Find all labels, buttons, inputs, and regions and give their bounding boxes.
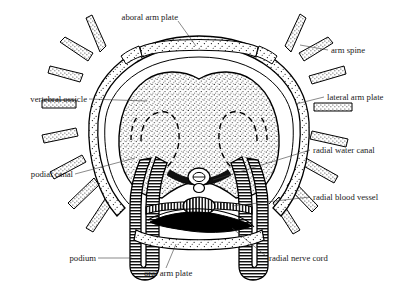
anatomical-diagram: aboral arm plate arm spine lateral arm p…: [0, 0, 405, 294]
label-arm-spine: arm spine: [331, 45, 365, 55]
label-podium: podium: [69, 253, 96, 263]
label-lateral-arm-plate: lateral arm plate: [327, 92, 384, 102]
label-oral-arm-plate: oral arm plate: [144, 268, 192, 278]
figure-canvas: aboral arm plate arm spine lateral arm p…: [0, 0, 405, 294]
label-radial-blood-vessel: radial blood vessel: [313, 192, 379, 202]
label-podial-canal: podial canal: [31, 169, 74, 179]
label-radial-water-canal: radial water canal: [313, 145, 375, 155]
label-vertebral-ossicle: vertebral ossicle: [30, 94, 87, 104]
arm-spine: [314, 103, 352, 111]
label-radial-nerve-cord: radial nerve cord: [269, 253, 329, 263]
label-aboral-arm-plate: aboral arm plate: [122, 12, 179, 22]
